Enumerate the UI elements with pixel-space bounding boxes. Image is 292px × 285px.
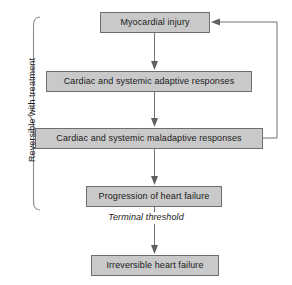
node-irreversible-heart-failure: Irreversible heart failure: [91, 255, 219, 276]
arrowhead-injury-to-adaptive: [151, 61, 158, 70]
node-myocardial-injury: Myocardial injury: [100, 12, 210, 33]
arrowhead-maladaptive-to-progression: [151, 176, 158, 185]
node-cardiac-systemic-maladaptive-responses: Cardiac and systemic maladaptive respons…: [35, 128, 263, 149]
reversible-with-treatment-label: Reversible with treatment: [27, 15, 37, 205]
flowchart-diagram: Myocardial injury Cardiac and systemic a…: [0, 0, 292, 285]
node-progression-of-heart-failure: Progression of heart failure: [86, 186, 222, 207]
terminal-threshold-label: Terminal threshold: [0, 212, 292, 222]
arrowhead-feedback-loop: [211, 19, 220, 26]
terminal-threshold-text: Terminal threshold: [105, 212, 187, 222]
node-cardiac-systemic-adaptive-responses: Cardiac and systemic adaptive responses: [46, 71, 252, 92]
arrowhead-adaptive-to-maladaptive: [151, 118, 158, 127]
arrowhead-threshold-to-irreversible: [151, 245, 158, 254]
